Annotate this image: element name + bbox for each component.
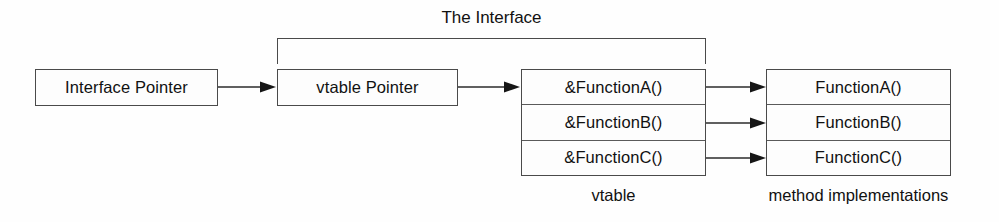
vtable-caption: vtable xyxy=(521,186,706,205)
method-implementations-box: FunctionA() FunctionB() FunctionC() xyxy=(766,69,951,176)
vtable-pointer-label: vtable Pointer xyxy=(278,70,457,105)
method-row-function-c: FunctionC() xyxy=(767,140,950,175)
interface-pointer-label: Interface Pointer xyxy=(36,70,217,105)
method-implementations-caption: method implementations xyxy=(740,186,977,205)
vtable-pointer-box: vtable Pointer xyxy=(277,69,458,106)
arrow-interface-pointer-to-vtable-pointer xyxy=(218,80,277,94)
arrow-vtable-row-b-to-function-b xyxy=(706,116,767,130)
method-row-function-b: FunctionB() xyxy=(767,104,950,139)
interface-bracket-label: The Interface xyxy=(277,8,706,28)
interface-pointer-box: Interface Pointer xyxy=(35,69,218,106)
arrow-vtable-row-c-to-function-c xyxy=(706,151,767,165)
vtable-box: &FunctionA() &FunctionB() &FunctionC() xyxy=(521,69,706,176)
vtable-row-function-c: &FunctionC() xyxy=(522,140,705,175)
arrow-vtable-pointer-to-vtable xyxy=(458,80,521,94)
vtable-row-function-a: &FunctionA() xyxy=(522,70,705,104)
method-row-function-a: FunctionA() xyxy=(767,70,950,104)
arrow-vtable-row-a-to-function-a xyxy=(706,80,767,94)
interface-bracket xyxy=(277,38,706,64)
vtable-diagram: The Interface Interface Pointer vtable P… xyxy=(0,0,999,222)
vtable-row-function-b: &FunctionB() xyxy=(522,104,705,139)
